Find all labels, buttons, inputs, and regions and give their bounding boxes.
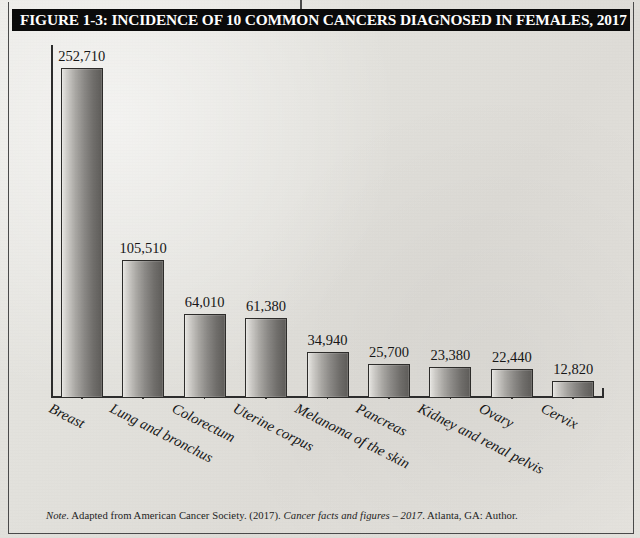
bar-item: 34,940 bbox=[307, 45, 349, 398]
bar-rect bbox=[122, 260, 164, 398]
figure-title-bar: FIGURE 1-3: INCIDENCE OF 10 COMMON CANCE… bbox=[12, 9, 630, 31]
bar-rect bbox=[552, 381, 594, 398]
bar-rect bbox=[61, 68, 103, 398]
bar-item: 252,710 bbox=[61, 45, 103, 398]
note-label: Note. bbox=[46, 509, 69, 521]
bar-item: 105,510 bbox=[122, 45, 164, 398]
bar-value-label: 105,510 bbox=[120, 240, 167, 257]
note-source-title: Cancer facts and figures – 2017 bbox=[284, 509, 423, 521]
bar-value-label: 252,710 bbox=[58, 48, 105, 65]
bar-rect bbox=[307, 352, 349, 398]
bar-rect bbox=[491, 369, 533, 398]
chart-plot-area: 252,710105,51064,01061,38034,94025,70023… bbox=[14, 33, 626, 498]
note-body-first: Adapted from American Cancer Society. (2… bbox=[69, 509, 283, 521]
figure-container: FIGURE 1-3: INCIDENCE OF 10 COMMON CANCE… bbox=[0, 0, 640, 538]
bar-item: 12,820 bbox=[552, 45, 594, 398]
bar-rect bbox=[245, 318, 287, 398]
x-axis-category-labels: BreastLung and bronchusColorectumUterine… bbox=[51, 400, 604, 495]
x-axis-category-label: Ovary bbox=[476, 400, 516, 432]
note-body-second: . Atlanta, GA: Author. bbox=[422, 509, 518, 521]
bar-rect bbox=[184, 314, 226, 398]
bar-rect bbox=[368, 364, 410, 398]
bar-item: 61,380 bbox=[245, 45, 287, 398]
bar-item: 23,380 bbox=[429, 45, 471, 398]
bar-value-label: 64,010 bbox=[185, 294, 225, 311]
bar-item: 25,700 bbox=[368, 45, 410, 398]
figure-note: Note. Adapted from American Cancer Socie… bbox=[46, 509, 626, 521]
x-axis-category-label: Breast bbox=[46, 400, 87, 432]
bar-rect bbox=[429, 367, 471, 398]
page-title: FIGURE 1-3: INCIDENCE OF 10 COMMON CANCE… bbox=[20, 11, 627, 29]
bar-item: 64,010 bbox=[184, 45, 226, 398]
x-axis-category-label: Lung and bronchus bbox=[108, 400, 216, 466]
bar-value-label: 61,380 bbox=[246, 298, 286, 315]
bar-value-label: 25,700 bbox=[369, 344, 409, 361]
bar-value-label: 22,440 bbox=[492, 349, 532, 366]
bar-series: 252,710105,51064,01061,38034,94025,70023… bbox=[51, 45, 604, 398]
bar-value-label: 23,380 bbox=[430, 347, 470, 364]
bar-item: 22,440 bbox=[491, 45, 533, 398]
x-axis-category-label: Cervix bbox=[538, 400, 580, 433]
bar-value-label: 34,940 bbox=[308, 332, 348, 349]
bar-value-label: 12,820 bbox=[553, 361, 593, 378]
